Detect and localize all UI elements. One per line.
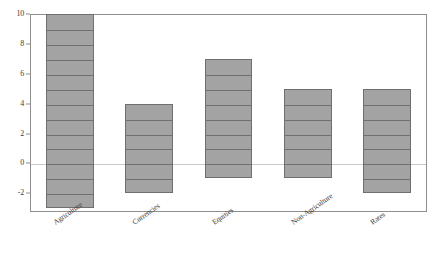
bar-agriculture — [46, 14, 94, 208]
bar-gridline — [364, 164, 410, 165]
bar-gridline — [285, 135, 331, 136]
bar-chart: -20246810 AgricultureCurrenciesEquitiesN… — [0, 0, 437, 275]
bar-gridline — [285, 105, 331, 106]
bar-gridline — [47, 75, 93, 76]
bar-gridline — [364, 105, 410, 106]
bar-gridline — [47, 120, 93, 121]
bar-gridline — [364, 120, 410, 121]
bar-gridline — [47, 135, 93, 136]
bar-gridline — [206, 164, 252, 165]
bar-gridline — [126, 149, 172, 150]
bar-gridline — [285, 120, 331, 121]
bar-equities — [205, 59, 253, 179]
bar-gridline — [285, 149, 331, 150]
bar-gridline — [126, 164, 172, 165]
bar-gridline — [206, 105, 252, 106]
bar-gridline — [206, 149, 252, 150]
bar-gridline — [47, 164, 93, 165]
bar-non-agriculture — [284, 89, 332, 179]
bar-gridline — [285, 164, 331, 165]
bar-gridline — [206, 75, 252, 76]
bar-rates — [363, 89, 411, 194]
bar-gridline — [47, 30, 93, 31]
bar-currencies — [125, 104, 173, 194]
bar-gridline — [47, 105, 93, 106]
bar-gridline — [47, 60, 93, 61]
bar-gridline — [206, 135, 252, 136]
bar-gridline — [206, 90, 252, 91]
bar-gridline — [364, 135, 410, 136]
bar-gridline — [126, 135, 172, 136]
bar-gridline — [126, 179, 172, 180]
bar-gridline — [47, 194, 93, 195]
bar-gridline — [47, 149, 93, 150]
bar-gridline — [47, 179, 93, 180]
bar-gridline — [364, 179, 410, 180]
bar-gridline — [364, 149, 410, 150]
bar-gridline — [126, 120, 172, 121]
bars-layer — [0, 0, 437, 275]
bar-gridline — [206, 120, 252, 121]
bar-gridline — [47, 90, 93, 91]
bar-gridline — [47, 45, 93, 46]
